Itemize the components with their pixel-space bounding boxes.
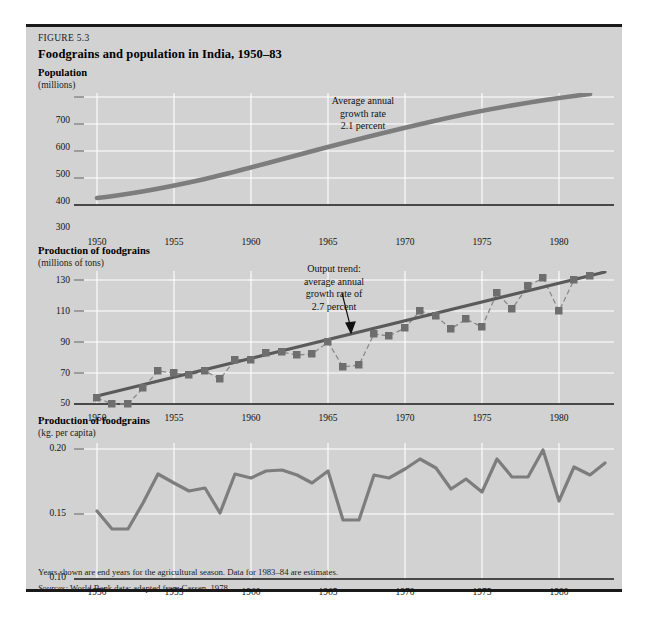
figure-container: FIGURE 5.3 Foodgrains and population in … — [26, 24, 622, 592]
panel-population-subtitle: (millions) — [38, 80, 75, 90]
production-ytick-110: 110 — [36, 306, 70, 316]
production-tick-marks — [74, 280, 84, 373]
figure-source-label: Sources: — [38, 583, 68, 593]
population-tick-marks — [74, 97, 84, 178]
population-ytick-300: 300 — [36, 222, 70, 232]
percapita-xtick-1975: 1975 — [462, 587, 502, 597]
panel-percapita-subtitle: (kg. per capita) — [38, 428, 96, 438]
percapita-xtick-1980: 1980 — [539, 587, 579, 597]
panel-production-title: Production of foodgrains — [38, 245, 150, 256]
production-ytick-130: 130 — [36, 275, 70, 285]
panel-population-title: Population — [38, 67, 87, 78]
percapita-svg — [74, 443, 614, 586]
production-ytick-70: 70 — [36, 368, 70, 378]
percapita-tick-marks — [74, 449, 84, 514]
population-ytick-500: 500 — [36, 169, 70, 179]
percapita-gridlines-vertical — [97, 443, 559, 579]
figure-source: Sources: World Bank data; adapted from C… — [38, 583, 230, 593]
percapita-line — [97, 450, 605, 529]
panel-population: Population (millions) — [26, 67, 622, 219]
panel-production: Production of foodgrains (millions of to… — [26, 245, 622, 420]
figure-number: FIGURE 5.3 — [38, 33, 90, 43]
percapita-ytick-020: 0.20 — [32, 443, 66, 453]
production-trend-annotation: Output trend: average annual growth rate… — [274, 263, 394, 313]
population-ytick-600: 600 — [36, 142, 70, 152]
panel-percapita: Production of foodgrains (kg. per capita… — [26, 415, 622, 575]
panel-percapita-title: Production of foodgrains — [38, 415, 150, 426]
population-growth-annotation: Average annual growth rate 2.1 percent — [298, 95, 428, 133]
percapita-ytick-015: 0.15 — [32, 508, 66, 518]
percapita-xtick-1960: 1960 — [231, 587, 271, 597]
panel-production-subtitle: (millions of tons) — [38, 258, 104, 268]
figure-title: Foodgrains and population in India, 1950… — [38, 47, 282, 62]
production-ytick-90: 90 — [36, 337, 70, 347]
production-ytick-50: 50 — [36, 398, 70, 408]
percapita-xtick-1965: 1965 — [308, 587, 348, 597]
population-ytick-700: 700 — [36, 115, 70, 125]
percapita-xtick-1970: 1970 — [385, 587, 425, 597]
population-ytick-400: 400 — [36, 196, 70, 206]
figure-note: Years shown are end years for the agricu… — [38, 567, 338, 577]
percapita-plot — [74, 443, 614, 586]
figure-source-text: World Bank data; adapted from Cassen, 19… — [70, 583, 230, 593]
